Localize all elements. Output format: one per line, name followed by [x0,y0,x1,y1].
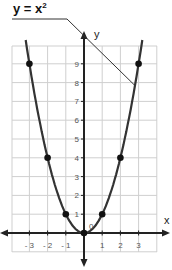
y-tick-label: 5 [75,135,80,144]
y-tick-label: 2 [75,191,80,200]
data-point [63,211,70,218]
y-tick-label: 1 [75,210,80,219]
y-axis-label: y [94,28,100,40]
x-tick-label: 2 [118,241,123,250]
x-tick-label: - 1 [61,241,71,250]
parabola-plot: - 3- 2- 1123123456789 x y 0 [0,0,172,270]
x-tick-label: 1 [100,241,105,250]
data-point [81,230,88,237]
data-point [44,155,51,162]
y-axis-down-arrow-icon [81,259,88,267]
y-tick-label: 6 [75,116,80,125]
x-axis-left-arrow-icon [0,230,8,237]
y-tick-label: 7 [75,97,80,106]
y-tick-label: 4 [75,154,80,163]
y-tick-label: 8 [75,79,80,88]
x-tick-label: - 3 [25,241,35,250]
data-point [99,211,106,218]
y-tick-label: 3 [75,173,80,182]
y-tick-label: 9 [75,60,80,69]
x-axis-label: x [164,214,170,226]
origin-label: 0 [89,222,94,231]
data-point [26,61,33,68]
data-point [117,155,124,162]
x-tick-label: - 2 [43,241,53,250]
x-axis-right-arrow-icon [162,230,170,237]
x-tick-label: 3 [136,241,141,250]
data-point [135,61,142,68]
